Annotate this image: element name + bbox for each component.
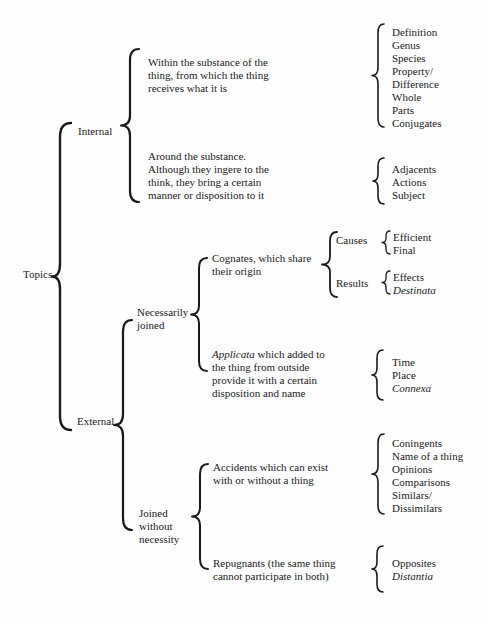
list-causes-topics: EfficientFinal xyxy=(393,231,431,257)
label-topics: Topics xyxy=(23,268,52,281)
list-around-substance-topics: AdjacentsActionsSubject xyxy=(392,163,436,202)
brace-topics xyxy=(52,123,71,430)
brace-list-coningents xyxy=(372,434,384,514)
brace-list-definition xyxy=(372,24,384,127)
brace-list-efficient xyxy=(382,231,390,254)
topics-bracket-diagram: Topics Internal External Within the subs… xyxy=(0,0,485,624)
label-causes: Causes xyxy=(336,234,367,247)
brace-internal xyxy=(121,49,139,202)
text-accidents: Accidents which can existwith or without… xyxy=(213,461,328,487)
list-results-topics: EffectsDestinata xyxy=(393,271,436,297)
text-applicata: Applicata which added tothe thing from o… xyxy=(212,348,325,400)
brace-list-time xyxy=(372,350,383,400)
label-joined-without-necessity: Joinedwithoutnecessity xyxy=(139,507,179,546)
text-around-substance: Around the substance.Although they inger… xyxy=(148,150,269,202)
brace-list-effects xyxy=(382,271,390,294)
brace-joined-without xyxy=(192,464,208,569)
brace-list-adjacents xyxy=(373,158,384,204)
list-repugnants-topics: OppositesDistantia xyxy=(392,557,436,583)
text-within-substance: Within the substance of thething, from w… xyxy=(148,56,269,95)
label-external: External xyxy=(77,415,114,428)
brace-external xyxy=(114,320,132,530)
list-accidents-topics: ConingentsName of a thingOpinionsCompari… xyxy=(392,437,463,515)
brace-necessarily-joined xyxy=(191,258,207,371)
text-cognates: Cognates, which sharetheir origin xyxy=(212,252,311,278)
label-results: Results xyxy=(336,277,368,290)
label-necessarily-joined: Necessarilyjoined xyxy=(137,306,188,332)
text-repugnants: Repugnants (the same thingcannot partici… xyxy=(213,557,336,583)
label-internal: Internal xyxy=(78,125,112,138)
brace-list-opposites xyxy=(372,546,383,592)
brace-cognates xyxy=(322,232,337,297)
list-within-substance-topics: DefinitionGenusSpeciesProperty/Differenc… xyxy=(392,26,442,130)
list-applicata-topics: TimePlaceConnexa xyxy=(392,356,431,395)
